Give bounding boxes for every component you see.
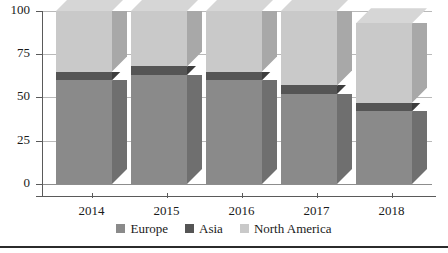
gridline-0 — [42, 184, 432, 185]
segment-front-face — [356, 103, 412, 112]
y-axis-line — [42, 11, 43, 185]
xtick-mark-2016 — [242, 193, 243, 198]
segment-front-face — [281, 11, 337, 85]
bar-segment-2015-europe[interactable] — [131, 75, 187, 184]
segment-side-face — [412, 23, 427, 103]
xtick-mark-2015 — [167, 193, 168, 198]
ytick-label-50: 50 — [2, 91, 30, 101]
segment-front-face — [56, 72, 112, 81]
bar-2015[interactable] — [131, 11, 187, 184]
bar-top-cap-2017 — [281, 0, 337, 11]
bar-segment-2014-europe[interactable] — [56, 80, 112, 184]
segment-side-face — [187, 75, 202, 184]
legend-label-europe: Europe — [130, 222, 168, 235]
xtick-mark-2018 — [392, 193, 393, 198]
segment-front-face — [206, 80, 262, 184]
segment-side-face — [337, 85, 352, 94]
bottom-divider — [0, 246, 448, 248]
bar-segment-2018-europe[interactable] — [356, 111, 412, 184]
bar-segment-2018-asia[interactable] — [356, 103, 412, 112]
x-category-label-2014: 2014 — [62, 203, 122, 219]
x-category-label-2018: 2018 — [362, 203, 422, 219]
bar-top-cap-2015 — [131, 0, 187, 11]
bar-segment-2017-europe[interactable] — [281, 94, 337, 184]
bar-segment-2014-north-america[interactable] — [56, 11, 112, 72]
legend-label-asia: Asia — [199, 222, 223, 235]
segment-side-face — [262, 72, 277, 81]
segment-front-face — [131, 75, 187, 184]
legend-swatch-europe — [116, 224, 125, 233]
bar-2014[interactable] — [56, 11, 112, 184]
x-category-label-2016: 2016 — [212, 203, 272, 219]
segment-side-face — [112, 72, 127, 81]
segment-front-face — [131, 66, 187, 75]
bar-2016[interactable] — [206, 11, 262, 184]
x-category-label-2015: 2015 — [137, 203, 197, 219]
segment-front-face — [56, 80, 112, 184]
xtick-mark-2014 — [92, 193, 93, 198]
segment-side-face — [337, 11, 352, 85]
segment-side-face — [262, 80, 277, 184]
bar-top-cap-2018 — [356, 8, 412, 23]
segment-front-face — [206, 72, 262, 81]
bar-2018[interactable] — [356, 11, 412, 184]
segment-front-face — [56, 11, 112, 72]
segment-side-face — [412, 111, 427, 184]
x-category-label-2017: 2017 — [287, 203, 347, 219]
bar-top-cap-2014 — [56, 0, 112, 11]
legend-item-europe[interactable]: Europe — [116, 222, 168, 235]
ytick-label-25: 25 — [2, 135, 30, 145]
segment-side-face — [187, 11, 202, 66]
bar-segment-2016-europe[interactable] — [206, 80, 262, 184]
bar-segment-2014-asia[interactable] — [56, 72, 112, 81]
bar-segment-2017-asia[interactable] — [281, 85, 337, 94]
bar-2017[interactable] — [281, 11, 337, 184]
bar-segment-2016-asia[interactable] — [206, 72, 262, 81]
segment-front-face — [356, 23, 412, 103]
ytick-label-0: 0 — [2, 178, 30, 188]
segment-side-face — [112, 80, 127, 184]
segment-front-face — [281, 94, 337, 184]
segment-front-face — [206, 11, 262, 72]
legend-item-north-america[interactable]: North America — [240, 222, 332, 235]
bar-top-cap-2016 — [206, 0, 262, 11]
segment-side-face — [262, 11, 277, 72]
legend-swatch-asia — [185, 224, 194, 233]
legend-swatch-north-america — [240, 224, 249, 233]
bar-segment-2018-north-america[interactable] — [356, 23, 412, 103]
segment-side-face — [187, 66, 202, 75]
segment-side-face — [112, 11, 127, 72]
legend-item-asia[interactable]: Asia — [185, 222, 223, 235]
bar-segment-2016-north-america[interactable] — [206, 11, 262, 72]
chart-legend: Europe Asia North America — [0, 222, 448, 235]
segment-front-face — [356, 111, 412, 184]
bar-segment-2015-asia[interactable] — [131, 66, 187, 75]
segment-front-face — [131, 11, 187, 66]
stacked-bar-chart: 100 75 50 25 0 20142015201620172018 Euro… — [0, 0, 448, 253]
plot-area: 100 75 50 25 0 20142015201620172018 — [0, 0, 448, 200]
bar-segment-2017-north-america[interactable] — [281, 11, 337, 85]
segment-side-face — [337, 94, 352, 184]
x-axis-line — [36, 196, 436, 197]
segment-side-face — [412, 103, 427, 112]
xtick-mark-2017 — [317, 193, 318, 198]
ytick-label-100: 100 — [2, 5, 30, 15]
legend-label-north-america: North America — [254, 222, 332, 235]
segment-front-face — [281, 85, 337, 94]
bar-segment-2015-north-america[interactable] — [131, 11, 187, 66]
ytick-label-75: 75 — [2, 48, 30, 58]
